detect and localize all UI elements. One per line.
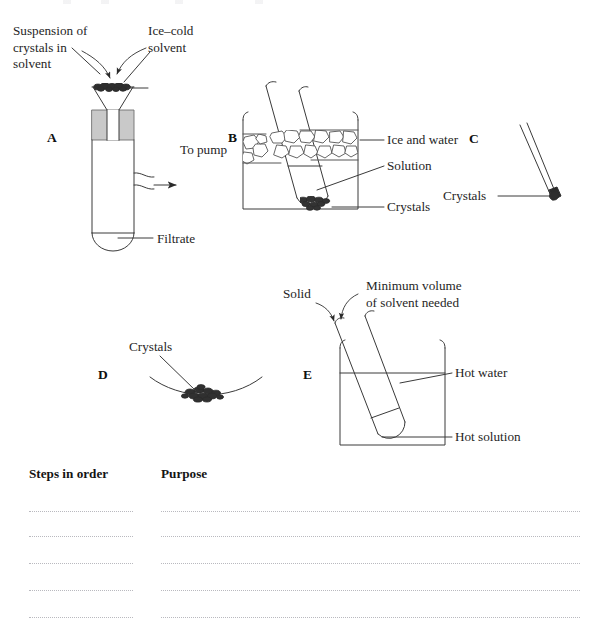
diagram-line-art	[0, 0, 592, 640]
purpose-answer-line-2[interactable]	[161, 534, 580, 537]
hot-solution-label: Hot solution	[455, 429, 521, 446]
panel-marker-c: C	[469, 131, 479, 147]
crystallisation-steps-figure: A B C D E Suspension of crystals in solv…	[0, 0, 592, 640]
steps-answer-line-3[interactable]	[29, 561, 133, 564]
panel-marker-e: E	[303, 367, 312, 383]
minimum-volume-of-solvent-label: Minimum volume of solvent needed	[366, 278, 462, 311]
panel-d-artwork	[150, 356, 262, 402]
panel-marker-b: B	[228, 130, 237, 146]
to-pump-label: To pump	[180, 142, 227, 159]
crystals-label-c: Crystals	[443, 188, 486, 205]
crystals-label-d: Crystals	[129, 339, 172, 356]
purpose-answer-line-4[interactable]	[161, 588, 580, 591]
steps-answer-line-1[interactable]	[29, 509, 133, 512]
purpose-answer-line-1[interactable]	[161, 509, 580, 512]
steps-answer-line-5[interactable]	[29, 615, 133, 618]
solution-label: Solution	[387, 158, 432, 175]
panel-c-artwork	[498, 123, 561, 200]
panel-e-artwork	[316, 294, 452, 445]
ice-cold-solvent-label: Ice–cold solvent	[148, 23, 193, 56]
purpose-answer-line-3[interactable]	[161, 561, 580, 564]
crystals-label-b: Crystals	[387, 199, 430, 216]
panel-a-artwork	[72, 48, 176, 251]
panel-marker-a: A	[47, 130, 57, 146]
purpose-answer-line-5[interactable]	[161, 615, 580, 618]
filtrate-label: Filtrate	[157, 231, 195, 248]
solid-label: Solid	[283, 286, 311, 303]
hot-water-label: Hot water	[455, 365, 507, 382]
panel-marker-d: D	[98, 367, 108, 383]
steps-answer-line-2[interactable]	[29, 534, 133, 537]
steps-in-order-header: Steps in order	[29, 466, 108, 482]
steps-answer-line-4[interactable]	[29, 588, 133, 591]
panel-b-artwork	[241, 82, 384, 211]
suspension-of-crystals-label: Suspension of crystals in solvent	[13, 23, 87, 73]
purpose-header: Purpose	[161, 466, 207, 482]
ice-and-water-label: Ice and water	[387, 132, 458, 149]
